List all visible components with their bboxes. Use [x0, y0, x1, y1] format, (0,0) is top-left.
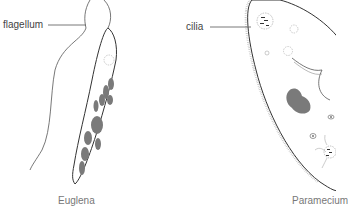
paramecium-caption: Paramecium: [292, 196, 348, 206]
euglena-caption: Euglena: [58, 196, 95, 206]
cilia-label: cilia: [186, 22, 203, 32]
flagellum-label: flagellum: [3, 20, 43, 30]
